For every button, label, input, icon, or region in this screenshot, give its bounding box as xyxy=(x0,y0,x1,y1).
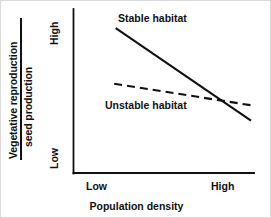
x-axis-title: Population density xyxy=(1,201,271,212)
y-axis-label: Vegetative reproduction seed production xyxy=(7,9,43,161)
y-tick-label-low: Low xyxy=(49,148,60,169)
series-label-unstable-habitat: Unstable habitat xyxy=(105,100,187,111)
series-label-stable-habitat: Stable habitat xyxy=(118,13,187,24)
x-tick-label-low: Low xyxy=(86,181,107,192)
y-tick-label-high: High xyxy=(49,22,60,45)
y-axis-label-numerator: Vegetative reproduction xyxy=(7,42,19,159)
y-axis-label-denominator: seed production xyxy=(22,67,34,147)
chart-figure: Vegetative reproduction seed production … xyxy=(0,0,271,218)
x-tick-label-high: High xyxy=(211,181,234,192)
